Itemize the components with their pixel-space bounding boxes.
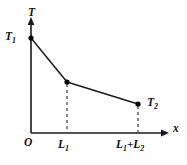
- label-T1-subscript: 1: [12, 36, 16, 45]
- label-T1: T1: [5, 31, 16, 43]
- curve-segment-1: [31, 38, 67, 82]
- label-L1L2-main1: L: [116, 138, 123, 150]
- y-axis-label: T: [28, 7, 35, 19]
- label-L1L2-subscript1: 1: [123, 144, 127, 153]
- x-tick-label-L1-plus-L2: L1+L2: [116, 139, 144, 151]
- data-point-T2: [135, 101, 140, 106]
- label-T2: T2: [147, 97, 158, 109]
- label-T1-main: T: [5, 30, 12, 42]
- x-tick-label-L1: L1: [58, 139, 69, 151]
- label-L1L2-subscript2: 2: [140, 144, 144, 153]
- label-L1-main: L: [58, 138, 65, 150]
- curve-segment-2: [67, 82, 138, 104]
- data-point-T1: [28, 35, 33, 40]
- x-axis-arrowhead: [161, 130, 169, 137]
- label-T2-subscript: 2: [154, 102, 158, 111]
- origin-label: O: [24, 137, 32, 149]
- figure-container: T x O T1 T2 L1 L1+L2: [0, 0, 187, 165]
- label-L1-subscript: 1: [65, 144, 69, 153]
- x-axis-label: x: [173, 123, 179, 135]
- label-T2-main: T: [147, 96, 154, 108]
- data-point-interface: [64, 79, 69, 84]
